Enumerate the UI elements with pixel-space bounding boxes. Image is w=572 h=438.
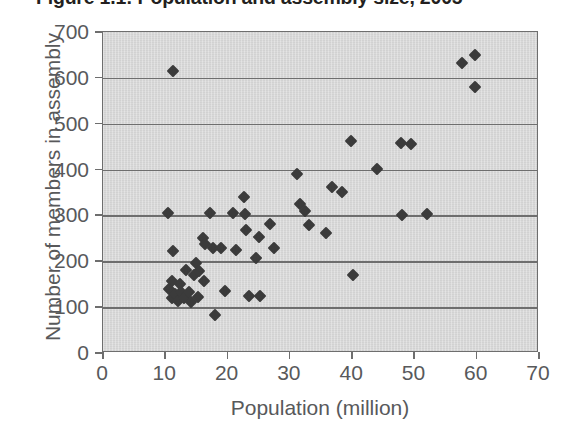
data-point: [371, 162, 384, 175]
x-tick-label: 0: [72, 362, 132, 383]
data-point: [264, 217, 277, 230]
x-tick-label: 20: [197, 362, 257, 383]
chart-title: Figure 1.1: Population and assembly size…: [36, 0, 572, 10]
x-tick-label: 50: [383, 362, 443, 383]
data-point: [421, 208, 434, 221]
x-tick-label: 10: [134, 362, 194, 383]
gridline: [103, 261, 537, 263]
data-point: [469, 81, 482, 94]
x-tick-mark: [351, 352, 353, 359]
data-point: [226, 207, 239, 220]
data-point: [404, 138, 417, 151]
data-point: [345, 135, 358, 148]
data-point: [320, 226, 333, 239]
y-axis-title: Number of members in assembly: [41, 27, 65, 347]
y-tick-mark: [95, 169, 102, 171]
y-tick-mark: [95, 306, 102, 308]
x-tick-label: 40: [321, 362, 381, 383]
y-tick-mark: [95, 260, 102, 262]
x-tick-mark: [413, 352, 415, 359]
x-tick-label: 60: [446, 362, 506, 383]
data-point: [254, 290, 267, 303]
data-point: [469, 49, 482, 62]
y-tick-mark: [95, 214, 102, 216]
x-tick-label: 70: [508, 362, 568, 383]
gridline: [103, 78, 537, 80]
gridline: [103, 170, 537, 172]
data-point: [239, 208, 252, 221]
x-tick-mark: [538, 352, 540, 359]
plot-background-texture: [103, 32, 537, 351]
x-tick-mark: [476, 352, 478, 359]
data-point: [230, 243, 243, 256]
data-point: [267, 242, 280, 255]
data-point: [167, 245, 180, 258]
data-point: [396, 209, 409, 222]
data-point: [455, 57, 468, 70]
data-point: [237, 191, 250, 204]
data-point: [161, 207, 174, 220]
data-point: [219, 285, 232, 298]
x-tick-mark: [164, 352, 166, 359]
gridline: [103, 124, 537, 126]
data-point: [204, 207, 217, 220]
data-point: [166, 65, 179, 78]
figure-container: Figure 1.1: Population and assembly size…: [0, 0, 572, 438]
data-point: [240, 224, 253, 237]
data-point: [252, 231, 265, 244]
y-tick-mark: [95, 77, 102, 79]
x-tick-mark: [289, 352, 291, 359]
x-tick-mark: [227, 352, 229, 359]
x-tick-mark: [102, 352, 104, 359]
data-point: [347, 269, 360, 282]
data-point: [302, 218, 315, 231]
data-point: [209, 309, 222, 322]
data-point: [215, 242, 228, 255]
x-axis-title: Population (million): [102, 396, 538, 420]
y-tick-mark: [95, 31, 102, 33]
y-tick-mark: [95, 123, 102, 125]
x-tick-label: 30: [259, 362, 319, 383]
y-tick-mark: [95, 352, 102, 354]
gridline: [103, 307, 537, 309]
plot-area: [102, 31, 538, 352]
